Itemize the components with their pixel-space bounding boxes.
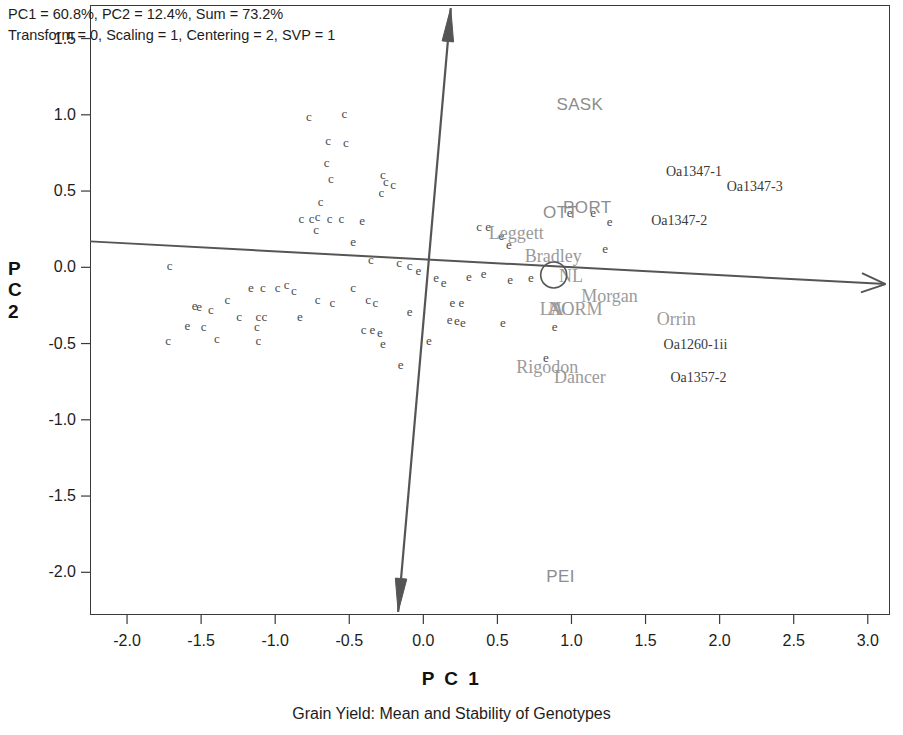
data-point-e: e — [398, 358, 404, 371]
plot-frame: ccccccccccccccccececeeeeeeeccceceeeeeece… — [90, 5, 890, 615]
data-point-c: c — [313, 222, 319, 235]
data-point-e: e — [460, 315, 466, 328]
data-point-e: e — [450, 295, 456, 308]
data-point-c: c — [328, 172, 334, 185]
y-tick-label: 1.0 — [28, 106, 76, 124]
data-point-c: c — [165, 333, 171, 346]
data-point-e: e — [454, 314, 460, 327]
data-point-e: e — [350, 234, 356, 247]
data-point-c: c — [365, 292, 371, 305]
data-point-e: e — [359, 213, 365, 226]
x-tick-label: -1.5 — [187, 632, 215, 650]
data-point-e: e — [426, 333, 432, 346]
x-tick-label: 2.0 — [709, 632, 731, 650]
genotype-label: Bradley — [525, 247, 582, 265]
data-point-e: e — [196, 300, 202, 313]
entry-code-label: Oa1357-2 — [670, 371, 726, 385]
x-tick-label: 1.0 — [560, 632, 582, 650]
y-axis-title-char: 2 — [8, 301, 22, 322]
y-axis-title: PC2 — [8, 258, 22, 322]
data-point-e: e — [407, 305, 413, 318]
data-point-c: c — [214, 332, 220, 345]
data-point-c: c — [341, 106, 347, 119]
x-tick-label: 1.5 — [634, 632, 656, 650]
genotype-label: NL — [559, 267, 583, 285]
data-point-c: c — [350, 280, 356, 293]
variance-explained-text: PC1 = 60.8%, PC2 = 12.4%, Sum = 73.2% — [8, 4, 335, 25]
plot-area: ccccccccccccccccececeeeeeeeccceceeeeeece… — [91, 6, 889, 614]
data-point-c: c — [201, 320, 207, 333]
y-tick-label: -1.0 — [28, 411, 76, 429]
data-point-c: c — [254, 320, 260, 333]
x-tick-label: 2.5 — [783, 632, 805, 650]
data-point-c: c — [260, 280, 266, 293]
x-tick-label: 3.0 — [857, 632, 879, 650]
environment-label: SASK — [556, 95, 603, 112]
data-point-c: c — [275, 280, 281, 293]
genotype-label: NORM — [548, 300, 602, 318]
y-tick-label: -0.5 — [28, 335, 76, 353]
entry-code-label: Oa1347-3 — [727, 180, 783, 194]
x-tick-label: 0.0 — [412, 632, 434, 650]
data-point-e: e — [500, 315, 506, 328]
y-axis-title-char: P — [8, 258, 22, 279]
data-point-e: e — [466, 269, 472, 282]
data-point-c: c — [167, 259, 173, 272]
data-point-c: c — [343, 135, 349, 148]
data-point-c: c — [325, 134, 331, 147]
y-tick-label: -2.0 — [28, 563, 76, 581]
environment-label: PEI — [546, 568, 575, 585]
data-point-c: c — [318, 195, 324, 208]
data-point-e: e — [552, 320, 558, 333]
data-point-c: c — [298, 211, 304, 224]
genotype-label: Dancer — [554, 368, 606, 386]
data-point-c: c — [327, 211, 333, 224]
data-point-c: c — [396, 256, 402, 269]
data-point-c: c — [330, 295, 336, 308]
y-axis-title-char: C — [8, 279, 22, 300]
data-point-c: c — [338, 211, 344, 224]
data-point-e: e — [441, 276, 447, 289]
data-point-c: c — [324, 155, 330, 168]
genotype-label: Leggett — [489, 224, 544, 242]
x-tick-label: 0.5 — [486, 632, 508, 650]
x-tick-label: -1.0 — [261, 632, 289, 650]
data-point-e: e — [528, 271, 534, 284]
y-tick-label: -1.5 — [28, 487, 76, 505]
data-point-c: c — [407, 259, 413, 272]
biplot-root: ccccccccccccccccececeeeeeeeccceceeeeeece… — [0, 0, 903, 735]
data-point-c: c — [208, 303, 214, 316]
entry-code-label: Oa1260-1ii — [664, 338, 728, 352]
entry-code-label: Oa1347-2 — [651, 214, 707, 228]
y-tick-label: 0.0 — [28, 258, 76, 276]
data-point-e: e — [458, 295, 464, 308]
data-point-c: c — [291, 283, 297, 296]
entry-code-label: Oa1347-1 — [666, 165, 722, 179]
data-point-e: e — [248, 280, 254, 293]
data-point-c: c — [306, 109, 312, 122]
y-tick-label: 1.5 — [28, 30, 76, 48]
data-point-c: c — [378, 186, 384, 199]
figure-caption: Grain Yield: Mean and Stability of Genot… — [0, 705, 903, 723]
y-tick-label: 0.5 — [28, 182, 76, 200]
data-point-c: c — [256, 333, 262, 346]
environment-label: PORT — [563, 199, 612, 216]
data-point-e: e — [380, 337, 386, 350]
x-tick-label: -2.0 — [113, 632, 141, 650]
data-point-c: c — [261, 309, 267, 322]
data-point-c: c — [236, 309, 242, 322]
x-axis-title: P C 1 — [0, 668, 903, 690]
data-point-c: c — [361, 323, 367, 336]
data-point-e: e — [370, 323, 376, 336]
data-point-e: e — [416, 263, 422, 276]
data-point-c: c — [315, 292, 321, 305]
data-point-c: c — [224, 292, 230, 305]
data-point-e: e — [602, 242, 608, 255]
data-point-c: c — [390, 178, 396, 191]
data-point-c: c — [368, 253, 374, 266]
data-point-e: e — [507, 272, 513, 285]
x-tick-label: -0.5 — [335, 632, 363, 650]
data-point-e: e — [297, 309, 303, 322]
data-point-e: e — [433, 271, 439, 284]
data-point-c: c — [476, 219, 482, 232]
